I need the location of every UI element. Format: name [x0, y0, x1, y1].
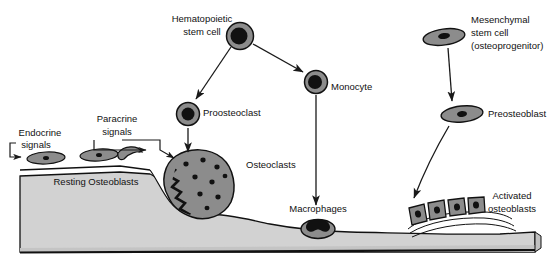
- label-resting-osteoblasts: Resting Osteoblasts: [53, 176, 138, 187]
- label-activated-osteoblasts-line1: Activated: [492, 190, 531, 201]
- label-hematopoietic-stem-cell-line2: stem cell: [183, 26, 220, 37]
- arrow-mesenchymal-to-preosteoblast: [448, 48, 452, 101]
- arrow-hsc-to-proosteoclast: [196, 47, 231, 99]
- hsc-nucleus: [231, 28, 248, 45]
- resting-osteoblast-3: [118, 147, 142, 160]
- label-preosteoblast: Preosteoblast: [488, 108, 546, 119]
- label-macrophages: Macrophages: [289, 203, 347, 214]
- label-paracrine-signals-line1: Paracrine: [97, 113, 138, 124]
- label-hematopoietic-stem-cell-line1: Hematopoietic: [172, 13, 233, 24]
- arrow-hsc-to-monocyte: [253, 44, 303, 72]
- label-endocrine-signals-line1: Endocrine: [19, 127, 62, 138]
- monocyte-cell: [305, 71, 328, 94]
- proosteoclast-cell: [177, 103, 200, 126]
- macrophage-cell: [301, 219, 335, 239]
- label-osteoclasts: Osteoclasts: [246, 159, 296, 170]
- bone-remodeling-diagram: Hematopoietic stem cell Proosteoclast Mo…: [0, 0, 555, 268]
- preosteoblast-cell: [440, 104, 483, 124]
- activated-osteoblast-1: [409, 204, 427, 225]
- label-mesenchymal-stem-cell-line1: Mesenchymal: [471, 14, 530, 25]
- bone-left-surface-line: [20, 166, 150, 170]
- monocyte-nucleus: [308, 75, 322, 89]
- activated-osteoblast-2: [428, 200, 446, 220]
- mesenchymal-stem-cell: [422, 26, 466, 48]
- label-mesenchymal-stem-cell-line2: stem cell: [471, 27, 508, 38]
- endocrine-signal-bracket: [10, 143, 21, 157]
- arrow-preosteoblast-to-activated-osteoblasts: [414, 126, 449, 198]
- label-activated-osteoblasts-line2: osteoblasts: [488, 203, 536, 214]
- label-mesenchymal-stem-cell-line3: (osteoprogenitor): [471, 40, 543, 51]
- label-proosteoclast: Proosteoclast: [203, 107, 261, 118]
- label-paracrine-signals-line2: signals: [102, 126, 132, 137]
- label-monocyte: Monocyte: [331, 81, 372, 92]
- activated-osteoblast-4: [468, 197, 485, 214]
- activated-osteoblast-3: [448, 198, 466, 216]
- label-endocrine-signals-line2: signals: [21, 139, 51, 150]
- resting-osteoblast-1: [27, 151, 66, 165]
- proosteoclast-nucleus: [182, 108, 195, 121]
- bone-right-bevel: [535, 232, 541, 252]
- hematopoietic-stem-cell: [227, 23, 254, 50]
